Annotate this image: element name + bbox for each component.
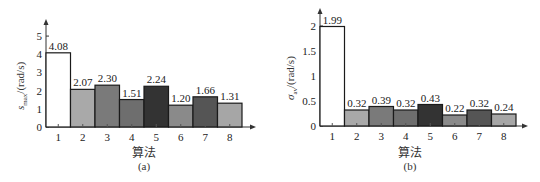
x-axis-label-b: 算法 xyxy=(380,143,440,160)
bar xyxy=(193,97,218,127)
bar-value-label: 1.66 xyxy=(196,84,216,96)
y-tick-label: 0 xyxy=(37,121,43,133)
bar-value-label: 0.39 xyxy=(372,94,392,106)
x-tick-label: 3 xyxy=(105,131,111,143)
y-axis-arrow-icon xyxy=(44,19,49,25)
bar-value-label: 0.24 xyxy=(494,101,514,113)
y-axis-label-a: smax/(rad/s) xyxy=(14,62,29,110)
y-tick-label: 4 xyxy=(37,48,43,60)
bar xyxy=(120,100,145,127)
chart-panel-b: 00.511.521.9910.3220.3930.3240.4350.2260… xyxy=(270,0,540,182)
x-tick-label: 7 xyxy=(477,130,483,142)
x-tick-label: 1 xyxy=(330,130,336,142)
y-tick-label: 2 xyxy=(37,85,43,97)
x-tick-label: 1 xyxy=(56,131,62,143)
x-tick-label: 8 xyxy=(501,130,507,142)
bar-value-label: 2.30 xyxy=(98,72,118,84)
x-axis-label-a: 算法 xyxy=(114,143,174,160)
x-tick-label: 2 xyxy=(354,130,360,142)
chart-panel-a: 0123454.0812.0722.3031.5142.2451.2061.66… xyxy=(0,0,270,182)
bar xyxy=(46,53,71,127)
bar xyxy=(169,105,194,127)
y-tick-label: 2 xyxy=(311,20,317,32)
x-tick-label: 6 xyxy=(178,131,184,143)
bar-value-label: 1.51 xyxy=(122,87,141,99)
x-axis-arrow-icon xyxy=(250,125,256,130)
bar-value-label: 0.43 xyxy=(421,92,441,104)
x-tick-label: 2 xyxy=(80,131,86,143)
y-tick-label: 5 xyxy=(37,30,43,42)
bar-value-label: 0.32 xyxy=(470,97,489,109)
caption-b: (b) xyxy=(390,160,430,172)
bar xyxy=(418,105,443,127)
y-tick-label: 1.5 xyxy=(302,45,316,57)
bar-value-label: 0.32 xyxy=(396,97,415,109)
x-tick-label: 4 xyxy=(403,130,409,142)
y-tick-label: 1 xyxy=(37,103,43,115)
y-tick-label: 0 xyxy=(311,120,317,132)
bar-value-label: 1.31 xyxy=(220,90,239,102)
x-tick-label: 8 xyxy=(227,131,233,143)
bar-value-label: 0.32 xyxy=(347,97,366,109)
y-tick-label: 0.5 xyxy=(302,95,316,107)
bar-value-label: 0.22 xyxy=(445,102,464,114)
bar xyxy=(218,103,243,127)
y-tick-label: 1 xyxy=(311,70,317,82)
bar-value-label: 1.20 xyxy=(171,92,191,104)
x-tick-label: 4 xyxy=(129,131,135,143)
bar-value-label: 4.08 xyxy=(49,40,69,52)
x-tick-label: 6 xyxy=(452,130,458,142)
bar xyxy=(95,85,120,127)
bar-value-label: 1.99 xyxy=(323,14,343,26)
bar-value-label: 2.07 xyxy=(73,76,93,88)
bar xyxy=(144,86,169,127)
x-tick-label: 5 xyxy=(428,130,434,142)
x-axis-arrow-icon xyxy=(522,124,528,129)
bar xyxy=(320,27,345,127)
y-axis-label-b: σav/(rad/s) xyxy=(284,56,299,100)
bar-value-label: 2.24 xyxy=(147,73,167,85)
bar xyxy=(71,89,96,127)
caption-a: (a) xyxy=(124,160,164,172)
x-tick-label: 5 xyxy=(154,131,160,143)
y-tick-label: 3 xyxy=(37,66,43,78)
x-tick-label: 7 xyxy=(203,131,209,143)
x-tick-label: 3 xyxy=(379,130,385,142)
